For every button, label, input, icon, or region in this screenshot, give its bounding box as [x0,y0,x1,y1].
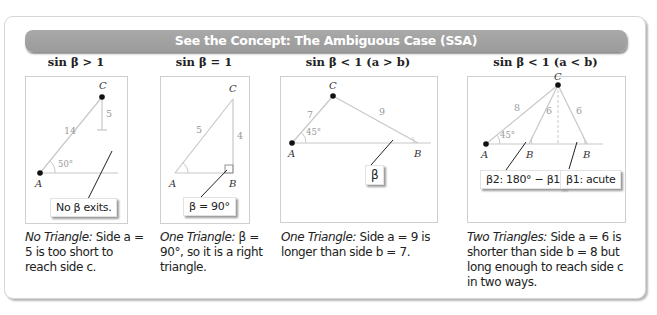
column-title-one-right-triangle: sin β = 1 [160,55,248,69]
angle-50-label: 50° [58,159,73,169]
side-5-label: 5 [106,108,112,119]
caption-lead: One Triangle: [160,230,235,244]
point-c-label: C [554,71,562,82]
point-b-label: B [413,148,421,159]
side-4-label: 4 [237,130,243,141]
column-title-one-triangle-a-gt-b: sin β < 1 (a > b) [280,55,436,69]
callout-beta-90: β = 90° [183,197,236,216]
caption-lead: One Triangle: [281,230,356,244]
callout-no-beta: No β exits. [50,198,117,217]
point-a-label: A [34,178,42,189]
diagram-one-triangle: A B C 7 9 45° β [280,76,438,223]
caption-lead: Two Triangles: [467,230,547,244]
one-triangle-svg: A B C 7 9 45° [281,77,437,222]
side-8-label: 8 [514,102,520,113]
point-b-label: B [228,178,236,189]
side-6b-label: 6 [576,105,582,116]
column-title-no-triangle: sin β > 1 [30,55,122,69]
angle-45-label: 45° [306,127,321,137]
point-b2-label: B [525,149,533,160]
caption-lead: No Triangle: [25,230,92,244]
point-c-label: C [229,83,237,94]
section-header: See the Concept: The Ambiguous Case (SSA… [25,30,627,52]
caption-no-triangle: No Triangle: Side a = 5 is too short to … [25,230,145,275]
caption-one-triangle: One Triangle: Side a = 9 is longer than … [281,230,431,260]
diagram-right-triangle: A B C 5 4 β = 90° [160,76,250,224]
callout-beta: β [365,165,384,185]
column-title-two-triangles: sin β < 1 (a < b) [467,55,624,69]
point-a-label: A [287,148,295,159]
diagram-two-triangles: A B B C 8 6 6 45° β2: 180° − β1 β1: acut… [467,76,626,223]
two-triangles-svg: A B B C 8 6 6 45° [468,77,625,222]
point-c-label: C [99,80,107,91]
side-6a-label: 6 [546,105,552,116]
side-7-label: 7 [307,109,313,120]
point-c-label: C [329,80,337,91]
diagram-no-triangle: A C 14 5 50° No β exits. [25,76,128,224]
point-a-label: A [168,178,176,189]
angle-45-label: 45° [500,130,515,140]
point-b1-label: B [582,149,590,160]
callout-beta1: β1: acute [560,170,621,189]
callout-beta2: β2: 180° − β1 [480,170,566,189]
side-5-label: 5 [196,124,202,135]
caption-two-triangles: Two Triangles: Side a = 6 is shorter tha… [467,230,627,290]
side-14-label: 14 [64,125,76,136]
caption-one-right-triangle: One Triangle: β = 90°, so it is a right … [160,230,268,275]
point-a-label: A [480,149,488,160]
side-9-label: 9 [379,106,385,117]
